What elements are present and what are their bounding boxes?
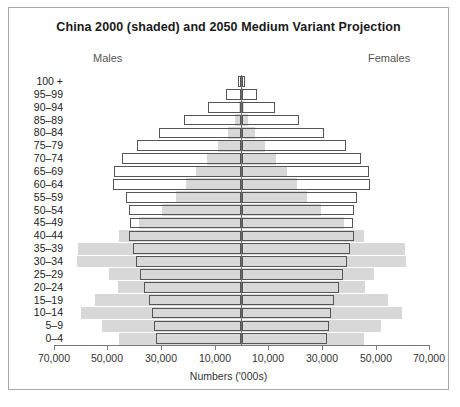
x-axis-tick-label: 10,000 — [238, 352, 298, 364]
chart-screenshot: China 2000 (shaded) and 2050 Medium Vari… — [0, 0, 460, 407]
bar-2050-males — [156, 333, 241, 344]
bar-2050-males — [208, 102, 241, 113]
age-group-label: 50–54 — [19, 204, 63, 217]
bar-2050-females — [242, 205, 355, 216]
pyramid-row: 30–34 — [0, 255, 460, 268]
x-axis-tick-label: 30,000 — [131, 352, 191, 364]
pyramid-row: 40–44 — [0, 229, 460, 242]
center-axis-line — [241, 75, 242, 346]
pyramid-row: 0–4 — [0, 332, 460, 345]
x-axis-tick — [322, 345, 323, 350]
age-group-label: 70–74 — [19, 152, 63, 165]
bar-2050-females — [242, 218, 354, 229]
age-group-label: 5–9 — [19, 319, 63, 332]
bar-2050-females — [242, 179, 370, 190]
bar-2050-males — [133, 243, 242, 254]
pyramid-row: 90–94 — [0, 101, 460, 114]
age-group-label: 0–4 — [19, 332, 63, 345]
age-group-label: 35–39 — [19, 242, 63, 255]
bar-2050-males — [152, 308, 241, 319]
age-group-label: 10–14 — [19, 306, 63, 319]
bar-2050-females — [242, 333, 327, 344]
bar-2050-females — [242, 115, 299, 126]
age-group-label: 100 + — [19, 75, 63, 88]
bar-2050-males — [140, 269, 242, 280]
pyramid-row: 65–69 — [0, 165, 460, 178]
bar-2050-males — [126, 192, 242, 203]
pyramid-row: 95–99 — [0, 88, 460, 101]
bar-2050-males — [136, 256, 242, 267]
bar-2050-females — [242, 269, 344, 280]
age-group-label: 15–19 — [19, 294, 63, 307]
age-group-label: 45–49 — [19, 216, 63, 229]
bar-2050-females — [242, 282, 339, 293]
pyramid-row: 20–24 — [0, 281, 460, 294]
pyramid-row: 60–64 — [0, 178, 460, 191]
x-axis-tick-label: 50,000 — [77, 352, 137, 364]
x-axis-tick-label: 30,000 — [292, 352, 352, 364]
bar-2050-females — [242, 166, 370, 177]
pyramid-row: 45–49 — [0, 216, 460, 229]
age-group-label: 80–84 — [19, 126, 63, 139]
age-group-label: 60–64 — [19, 178, 63, 191]
age-group-label: 95–99 — [19, 88, 63, 101]
pyramid-row: 10–14 — [0, 306, 460, 319]
bar-2050-females — [242, 128, 325, 139]
x-axis-line — [54, 345, 429, 346]
age-group-label: 20–24 — [19, 281, 63, 294]
bar-2050-females — [242, 295, 334, 306]
pyramid-row: 15–19 — [0, 294, 460, 307]
age-group-label: 30–34 — [19, 255, 63, 268]
pyramid-row: 35–39 — [0, 242, 460, 255]
age-group-label: 55–59 — [19, 191, 63, 204]
pyramid-row: 25–29 — [0, 268, 460, 281]
age-group-label: 25–29 — [19, 268, 63, 281]
x-axis-tick-label: 70,000 — [24, 352, 84, 364]
pyramid-row: 80–84 — [0, 126, 460, 139]
bar-2050-males — [129, 231, 241, 242]
x-axis-tick-label: 70,000 — [399, 352, 459, 364]
bar-2050-females — [242, 308, 331, 319]
bar-2050-females — [242, 76, 246, 87]
bar-2050-males — [149, 295, 241, 306]
bar-2050-males — [159, 128, 242, 139]
pyramid-row: 75–79 — [0, 139, 460, 152]
bar-2050-females — [242, 89, 257, 100]
x-axis-tick — [54, 345, 55, 350]
age-group-label: 90–94 — [19, 101, 63, 114]
x-axis-label: Numbers ('000s) — [8, 370, 449, 382]
bar-2050-males — [154, 321, 241, 332]
bar-2050-males — [113, 179, 241, 190]
bar-2050-females — [242, 192, 358, 203]
pyramid-row: 55–59 — [0, 191, 460, 204]
bar-2050-females — [242, 231, 354, 242]
bar-2050-females — [242, 153, 362, 164]
age-group-label: 40–44 — [19, 229, 63, 242]
bar-2050-males — [137, 140, 242, 151]
bar-2050-males — [184, 115, 241, 126]
pyramid-row: 100 + — [0, 75, 460, 88]
x-axis-tick — [215, 345, 216, 350]
x-axis-tick-label: 50,000 — [346, 352, 406, 364]
pyramid-row: 85–89 — [0, 114, 460, 127]
x-axis-tick — [161, 345, 162, 350]
bar-2050-males — [144, 282, 241, 293]
age-group-label: 85–89 — [19, 114, 63, 127]
pyramid-row: 50–54 — [0, 204, 460, 217]
bar-2050-females — [242, 256, 348, 267]
bar-2050-males — [122, 153, 242, 164]
x-axis-tick-label: 10,000 — [185, 352, 245, 364]
bar-2050-females — [242, 321, 329, 332]
bar-2050-males — [129, 205, 242, 216]
age-group-label: 75–79 — [19, 139, 63, 152]
x-axis-tick — [268, 345, 269, 350]
bar-2050-males — [114, 166, 242, 177]
bar-2050-females — [242, 102, 275, 113]
x-axis-tick — [376, 345, 377, 350]
x-axis-tick — [429, 345, 430, 350]
bar-2050-females — [242, 140, 347, 151]
age-group-label: 65–69 — [19, 165, 63, 178]
x-axis-tick — [107, 345, 108, 350]
bar-2050-males — [226, 89, 241, 100]
pyramid-row: 70–74 — [0, 152, 460, 165]
